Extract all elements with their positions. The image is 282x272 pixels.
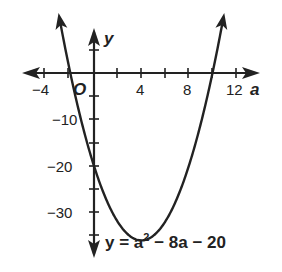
equation-lhs: y = a [105,233,144,252]
x-tick-label-8: 8 [183,81,191,98]
y-tick-label-neg20: −20 [47,158,72,175]
equation-rhs: − 8a − 20 [149,233,226,252]
x-tick-label-4: 4 [136,81,144,98]
x-tick-label-neg4: −4 [32,81,49,98]
y-tick-label-neg30: −30 [47,204,72,221]
parabola-curve [60,19,224,240]
y-axis-label: y [103,29,115,48]
parabola-graph: −4 4 8 12 −10 −20 −30 a y O y = a2 − 8a … [0,0,282,272]
y-tick-label-neg10: −10 [52,111,77,128]
equation-label: y = a2 − 8a − 20 [105,231,226,252]
x-axis-label: a [250,80,259,99]
x-tick-label-12: 12 [226,81,243,98]
